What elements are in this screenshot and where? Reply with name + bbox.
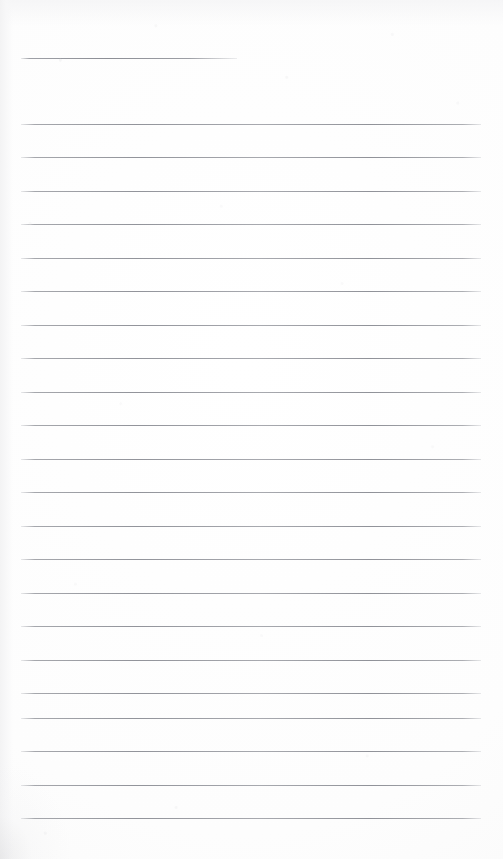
rule-2 — [21, 124, 481, 125]
rule-5 — [21, 224, 481, 225]
rule-20 — [21, 718, 481, 719]
rule-21 — [21, 751, 481, 752]
rule-12 — [21, 459, 481, 460]
rule-19 — [21, 693, 481, 694]
rule-9 — [21, 358, 481, 359]
scan-bottom-left-shading — [0, 739, 90, 859]
rule-4 — [21, 191, 481, 192]
rule-15 — [21, 559, 481, 560]
rule-11 — [21, 425, 481, 426]
rule-8 — [21, 325, 481, 326]
rule-7 — [21, 291, 481, 292]
scan-top-shading — [0, 0, 503, 26]
rule-1 — [21, 58, 237, 59]
paper-background — [0, 0, 503, 859]
rule-10 — [21, 392, 481, 393]
rule-22 — [21, 785, 481, 786]
rule-16 — [21, 593, 481, 594]
rule-18 — [21, 660, 481, 661]
rule-17 — [21, 626, 481, 627]
rule-6 — [21, 258, 481, 259]
rule-14 — [21, 526, 481, 527]
scan-left-gutter-shading — [0, 0, 13, 859]
rule-23 — [21, 818, 481, 819]
rule-13 — [21, 492, 481, 493]
rule-3 — [21, 157, 481, 158]
scanned-page — [0, 0, 503, 859]
